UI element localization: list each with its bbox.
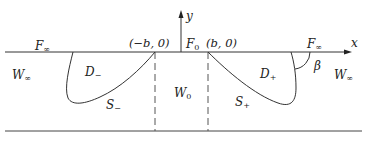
y-axis-arrow-icon bbox=[179, 10, 184, 18]
label-s-plus: S+ bbox=[235, 96, 250, 110]
curve-s-plus bbox=[208, 52, 296, 105]
label-f-zero: F0 bbox=[186, 38, 199, 52]
curve-s-minus bbox=[67, 52, 155, 103]
beta-angle-arc bbox=[295, 52, 310, 69]
y-axis-label: y bbox=[186, 10, 193, 22]
label-d-plus: D+ bbox=[260, 68, 276, 82]
label-w-inf-left: W∞ bbox=[12, 69, 31, 83]
label-f-inf-right: F∞ bbox=[307, 38, 322, 52]
label-s-minus: S− bbox=[106, 99, 121, 113]
label-beta: β bbox=[314, 60, 321, 72]
label-f-inf-left: F∞ bbox=[35, 40, 50, 54]
x-axis-arrow-icon bbox=[344, 50, 352, 55]
point-label-minus-b: (−b, 0) bbox=[129, 38, 170, 50]
diagram-figure: y x (−b, 0) (b, 0) F∞ F0 F∞ W∞ D− S− W0 … bbox=[0, 0, 367, 144]
diagram-lines bbox=[0, 0, 367, 144]
label-w-inf-right: W∞ bbox=[334, 69, 353, 83]
label-w-zero: W0 bbox=[174, 87, 191, 101]
x-axis-label: x bbox=[351, 37, 358, 49]
point-label-plus-b: (b, 0) bbox=[206, 38, 237, 50]
label-d-minus: D− bbox=[85, 66, 101, 80]
